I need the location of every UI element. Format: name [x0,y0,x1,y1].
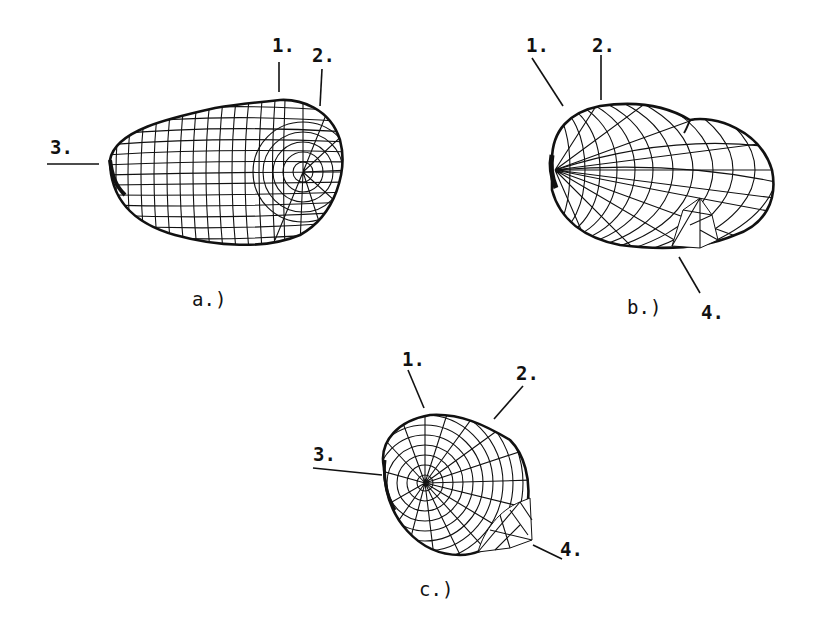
figure-canvas: 1. 2. 3. a.) [0,0,815,638]
leader-line-3 [313,468,382,475]
panel-b: 1. 2. 4. b.) [333,34,790,323]
label-2: 2. [516,362,539,384]
panel-b-wireframe [333,68,790,272]
label-2: 2. [592,34,615,56]
label-1: 1. [272,34,295,56]
label-1: 1. [402,348,425,370]
panel-b-shape [333,68,790,272]
panel-a-shape [105,100,353,250]
label-4: 4. [701,301,724,323]
label-1: 1. [526,34,549,56]
panel-b-caption: b.) [627,296,661,318]
panel-c-shape [327,385,535,581]
panel-a-caption: a.) [192,288,226,310]
leader-line-2 [320,69,322,106]
panel-c: 1. 2. 3. 4. c.) [313,348,583,600]
label-2: 2. [312,44,335,66]
label-4: 4. [560,538,583,560]
panel-a: 1. 2. 3. a.) [47,34,353,310]
leader-line-4 [533,545,562,559]
leader-line-1 [532,58,563,106]
panel-c-caption: c.) [419,578,453,600]
leader-line-1 [408,370,424,408]
leader-line-4 [679,257,700,293]
label-3: 3. [313,443,336,465]
leader-line-2 [494,386,523,419]
label-3: 3. [50,136,73,158]
